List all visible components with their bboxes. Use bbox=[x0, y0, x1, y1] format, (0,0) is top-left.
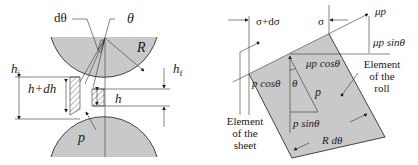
label-h: h bbox=[115, 91, 122, 106]
label-element-sheet: Element of the sheet bbox=[227, 115, 264, 151]
svg-text:Element: Element bbox=[364, 58, 401, 70]
label-mu-p: μp bbox=[374, 5, 387, 17]
label-h-initial: hi bbox=[11, 61, 21, 78]
label-radius: R bbox=[136, 40, 146, 55]
force-element-figure: σ+dσ σ μp μp sinθ μp cosθ p cosθ θ p p s… bbox=[227, 5, 406, 158]
svg-text:roll: roll bbox=[374, 82, 389, 94]
label-pressure: p bbox=[77, 130, 85, 145]
svg-text:sheet: sheet bbox=[234, 139, 257, 151]
label-element-roll: Element of the roll bbox=[364, 58, 401, 94]
label-p-sin: p sinθ bbox=[292, 117, 320, 129]
label-d-theta: dθ bbox=[54, 10, 67, 25]
label-theta-small: θ bbox=[292, 77, 298, 89]
label-p: p bbox=[314, 85, 321, 99]
label-theta: θ bbox=[127, 11, 134, 26]
lower-roll bbox=[51, 117, 157, 157]
label-p-cos: p cosθ bbox=[251, 77, 281, 89]
label-h-plus-dh: h+dh bbox=[28, 81, 56, 96]
label-mu-p-sin: μp sinθ bbox=[372, 36, 406, 48]
label-sigma: σ bbox=[318, 15, 324, 27]
sheet-element-entry bbox=[70, 77, 80, 115]
svg-text:of the: of the bbox=[232, 127, 257, 139]
label-r-dtheta: R dθ bbox=[321, 134, 343, 146]
label-sigma-plus-dsigma: σ+dσ bbox=[256, 15, 280, 27]
roll-gap-figure: dθ θ R hi hf h+dh h p bbox=[11, 10, 183, 157]
rolling-diagram: dθ θ R hi hf h+dh h p bbox=[0, 0, 418, 165]
svg-text:Element: Element bbox=[227, 115, 264, 127]
sheet-element-exit bbox=[92, 89, 104, 106]
label-mu-p-cos: μp cosθ bbox=[305, 57, 340, 69]
label-h-final: hf bbox=[173, 61, 183, 78]
svg-text:of the: of the bbox=[369, 70, 394, 82]
